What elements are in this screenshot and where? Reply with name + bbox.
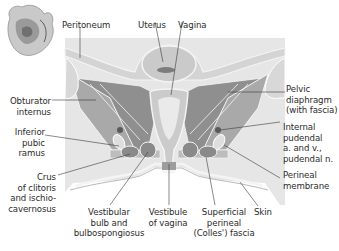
label-line: (with fascia) <box>286 105 338 116</box>
label-line: pudendal n. <box>283 154 333 165</box>
pelvis-orientation-thumbnail <box>8 5 53 55</box>
label-line: perineal <box>192 218 256 229</box>
label-perineal-membrane: Perineal membrane <box>283 170 329 191</box>
uterus-shape <box>142 46 196 82</box>
label-crus-of-clitoris: Crus of clitoris and ischio- cavernosus <box>0 172 56 214</box>
label-skin: Skin <box>254 207 272 218</box>
label-vagina: Vagina <box>178 20 206 31</box>
label-inferior-pubic-ramus: Inferior pubic ramus <box>0 127 45 159</box>
label-line: pudendal <box>283 133 333 144</box>
crus-clitoris-right <box>199 146 217 158</box>
label-line: Crus <box>0 172 56 183</box>
label-line: of clitoris <box>0 183 56 194</box>
uterine-cavity <box>157 67 175 73</box>
label-line: bulbospongiosus <box>66 228 152 239</box>
label-line: Superficial <box>192 207 256 218</box>
label-line: and ischio- <box>0 193 56 204</box>
label-vestibule-of-vagina: Vestibule of vagina <box>140 207 196 228</box>
label-line: of vagina <box>140 218 196 229</box>
label-peritoneum: Peritoneum <box>62 20 110 31</box>
label-line: Obturator <box>0 96 51 107</box>
label-line: Pelvic <box>286 84 338 95</box>
label-line: a. and v., <box>283 143 333 154</box>
crus-clitoris-left <box>121 146 139 158</box>
label-line: Inferior <box>0 127 45 138</box>
pudendal-vessels-left <box>117 127 123 133</box>
vestibular-bulb-left <box>140 142 156 158</box>
label-line: membrane <box>283 181 329 192</box>
label-obturator-internus: Obturator internus <box>0 96 51 117</box>
label-superficial-perineal-fascia: Superficial perineal (Colles') fascia <box>192 207 256 239</box>
label-line: cavernosus <box>0 204 56 215</box>
label-line: Internal <box>283 122 333 133</box>
label-line: pubic <box>0 138 45 149</box>
label-internal-pudendal: Internal pudendal a. and v., pudendal n. <box>283 122 333 164</box>
label-pelvic-diaphragm: Pelvic diaphragm (with fascia) <box>286 84 338 116</box>
label-line: internus <box>0 107 51 118</box>
label-line: Perineal <box>283 170 329 181</box>
label-line: Vestibule <box>140 207 196 218</box>
label-line: diaphragm <box>286 95 338 106</box>
label-uterus: Uterus <box>138 20 166 31</box>
vestibular-bulb-right <box>182 142 198 158</box>
label-line: (Colles') fascia <box>192 228 256 239</box>
label-line: ramus <box>0 148 45 159</box>
